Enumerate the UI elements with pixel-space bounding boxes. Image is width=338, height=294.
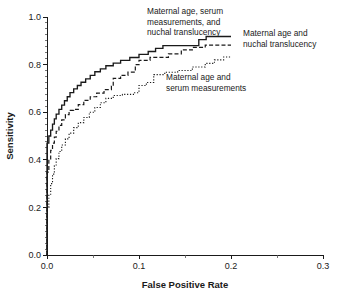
y-tick-label: 0.0 <box>28 250 41 260</box>
x-tick-label: 0.0 <box>41 261 54 271</box>
x-tick-label: 0.2 <box>225 261 238 271</box>
annotation-combined: Maternal age, serummeasurements, andnuch… <box>147 6 223 37</box>
roc-chart-figure: 0.00.20.40.60.81.00.00.10.20.3 Maternal … <box>0 0 338 294</box>
roc-plot-svg: 0.00.20.40.60.81.00.00.10.20.3 Maternal … <box>0 0 338 294</box>
y-tick-label: 0.2 <box>28 203 41 213</box>
x-tick-label: 0.1 <box>133 261 146 271</box>
y-tick-label: 0.4 <box>28 155 41 165</box>
y-tick-label: 0.8 <box>28 60 41 70</box>
y-tick-label: 1.0 <box>28 12 41 22</box>
y-tick-label: 0.6 <box>28 107 41 117</box>
y-axis-title: Sensitivity <box>4 112 15 160</box>
x-tick-label: 0.3 <box>317 261 330 271</box>
annotation-nt: Maternal age andnuchal translucency <box>243 28 317 49</box>
x-axis-title: False Positive Rate <box>142 279 229 290</box>
